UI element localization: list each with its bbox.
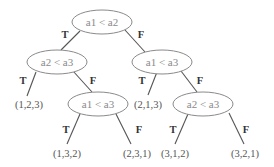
edge-label-left-false: F — [90, 75, 96, 86]
edge-label-right-true: T — [138, 75, 145, 86]
edge-label-root-true: T — [61, 29, 68, 40]
decision-tree-diagram: T F T F T F T F T F a1 < a2 a2 < a3 a1 <… — [0, 0, 274, 167]
leaf-231: (2,3,1) — [123, 148, 151, 160]
node-label: a2 < a3 — [41, 56, 74, 68]
edge-label-left-true: T — [19, 75, 26, 86]
edge-label-left-right-false: F — [136, 124, 142, 135]
node-label: a1 < a3 — [146, 56, 179, 68]
node-label: a1 < a2 — [86, 16, 118, 28]
edge-label-right-right-false: F — [243, 124, 249, 135]
edge-label-right-right-true: T — [169, 124, 176, 135]
decision-node-left-right: a1 < a3 — [68, 92, 128, 116]
edge-left-right-to-leaf-231 — [116, 114, 131, 144]
edge-label-root-false: F — [138, 29, 144, 40]
decision-node-left: a2 < a3 — [27, 50, 87, 74]
decision-node-right-right: a2 < a3 — [173, 92, 233, 116]
edge-labels: T F T F T F T F T F — [19, 29, 249, 135]
edge-right-to-right-right — [181, 71, 197, 92]
edge-left-to-leaf-123 — [27, 72, 36, 96]
decision-node-root: a1 < a2 — [72, 10, 132, 34]
decision-node-right: a1 < a3 — [132, 50, 192, 74]
node-label: a2 < a3 — [187, 98, 220, 110]
leaf-123: (1,2,3) — [15, 99, 43, 111]
leaf-213: (2,1,3) — [134, 99, 162, 111]
edge-label-right-false: F — [197, 75, 203, 86]
leaf-321: (3,2,1) — [231, 148, 259, 160]
leaf-312: (3,1,2) — [161, 148, 189, 160]
edge-label-left-right-true: T — [62, 124, 69, 135]
node-label: a1 < a3 — [82, 98, 115, 110]
edge-right-to-leaf-213 — [148, 72, 157, 95]
edge-right-right-to-leaf-321 — [229, 113, 244, 144]
leaf-132: (1,3,2) — [53, 148, 81, 160]
edge-right-right-to-leaf-312 — [175, 114, 188, 144]
